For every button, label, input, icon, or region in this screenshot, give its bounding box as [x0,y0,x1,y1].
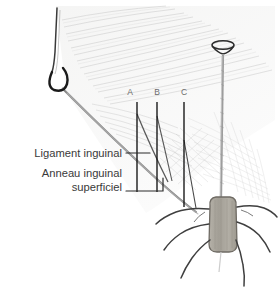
figure-canvas: A B C Ligament inguinal Anneau inguinal … [0,0,280,295]
anatomical-figure: A B C Ligament inguinal Anneau inguinal … [0,0,280,295]
label-anneau-inguinal: Anneau inguinal [42,167,122,179]
marker-letter-a: A [127,87,133,97]
marker-letter-c: C [181,87,187,97]
marker-letter-b: B [154,87,160,97]
spermatic-cord [209,197,237,252]
label-anneau-superficiel: superficiel [72,181,122,193]
label-ligament-inguinal: Ligament inguinal [34,147,122,159]
